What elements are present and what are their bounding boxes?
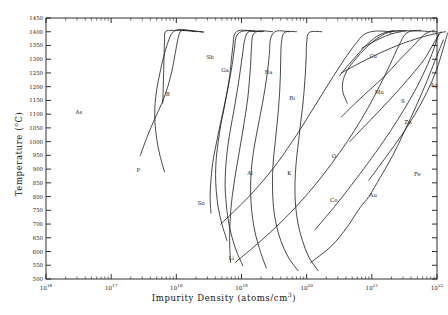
curve-P [155, 29, 204, 171]
y-axis-title-pre: Temperature ( [14, 127, 24, 197]
curve-label-Li: Li [229, 255, 235, 261]
x-axis-title-post: ) [292, 293, 296, 303]
y-axis-title-superscript: o [12, 123, 19, 127]
curve-K [295, 31, 322, 270]
curve-Mn [342, 31, 401, 103]
y-tick-label: 1350 [29, 42, 43, 48]
x-tick-label: 1021 [366, 283, 379, 291]
y-tick-label: 850 [33, 180, 44, 186]
curve-label-Sb: Sb [207, 54, 215, 60]
x-tick-label: 1019 [235, 283, 248, 291]
y-tick-label: 1400 [29, 29, 43, 35]
x-tick-label: 1018 [170, 283, 183, 291]
x-tick-label: 1017 [105, 283, 118, 291]
y-axis-title: Temperature (oC) [12, 94, 24, 214]
y-tick-label: 650 [33, 235, 44, 241]
curve-label-Bi: Bi [289, 95, 295, 101]
y-tick-label: 700 [33, 221, 44, 227]
x-tick-label: 1016 [40, 283, 53, 291]
y-tick-label: 550 [33, 262, 44, 268]
y-tick-label: 1200 [29, 84, 43, 90]
y-tick-label: 500 [33, 276, 44, 282]
curve-Fe [369, 33, 448, 180]
y-tick-label: 800 [33, 194, 44, 200]
y-tick-label: 1300 [29, 56, 43, 62]
y-tick-label: 1000 [29, 139, 43, 145]
y-tick-label: 1150 [29, 97, 43, 103]
y-tick-label: 900 [33, 166, 44, 172]
y-axis-title-post: C) [14, 112, 24, 123]
y-tick-label: 1100 [29, 111, 43, 117]
y-tick-label: 600 [33, 249, 44, 255]
curve-label-K: K [287, 170, 292, 176]
curve-label-Fe: Fe [414, 171, 421, 177]
x-tick-label: 1020 [300, 283, 313, 291]
curve-O [235, 31, 431, 263]
curve-label-Co: Co [330, 197, 337, 203]
curve-label-Al: Al [246, 170, 253, 176]
y-tick-label: 750 [33, 207, 44, 213]
curve-label-P: P [136, 167, 140, 173]
x-tick-label: 1022 [431, 283, 444, 291]
curve-label-O: O [331, 153, 336, 159]
y-tick-label: 1050 [29, 125, 43, 131]
curve-label-As: As [75, 109, 83, 115]
curve-label-B: B [166, 91, 170, 97]
curve-label-Sn: Sn [198, 200, 206, 206]
curve-label-Na: Na [265, 69, 274, 75]
curve-label-Ga: Ga [221, 67, 229, 73]
x-axis-title-pre: Impurity Density (atoms/cm [152, 293, 288, 303]
curve-label-S: S [401, 98, 405, 104]
curve-label-Au: Au [369, 192, 378, 198]
curve-Sn [210, 31, 261, 213]
plot-area: 1016101710181019102010211022500550600650… [0, 0, 448, 315]
curve-Sb [216, 30, 255, 240]
curve-label-Mn: Mn [375, 89, 385, 95]
curve-label-Zn: Zn [404, 119, 412, 125]
curve-label-Ag: Ag [429, 82, 438, 89]
x-axis-title: Impurity Density (atoms/cm3) [0, 291, 448, 303]
curve-label-C: C [389, 29, 393, 35]
y-tick-label: 1450 [29, 15, 43, 21]
y-tick-label: 950 [33, 152, 44, 158]
curve-S [341, 30, 434, 117]
curve-Ga [230, 31, 273, 263]
y-tick-label: 1250 [29, 70, 43, 76]
solid-solubility-chart: 1016101710181019102010211022500550600650… [0, 0, 448, 315]
